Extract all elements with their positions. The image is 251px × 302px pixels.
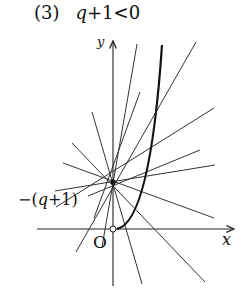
origin-open-circle xyxy=(110,226,116,232)
origin-label: O xyxy=(93,232,107,252)
pivot-point xyxy=(111,180,116,185)
pivot-label-prefix: −( xyxy=(18,190,38,209)
pivot-label-suffix: +1) xyxy=(48,190,78,209)
pivot-label-var: q xyxy=(38,190,48,209)
y-axis-label: y xyxy=(97,34,104,49)
pivot-label: −(q+1) xyxy=(18,190,78,209)
x-axis-label: x xyxy=(222,230,231,249)
line-family xyxy=(55,42,215,284)
coordinate-diagram xyxy=(0,0,251,302)
